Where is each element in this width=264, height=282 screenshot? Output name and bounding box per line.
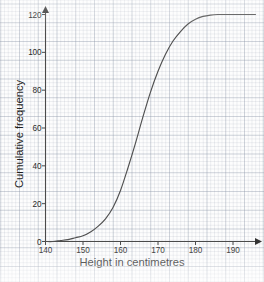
x-axis-title: Height in centimetres [0, 256, 264, 268]
x-tick-label: 170 [151, 246, 164, 255]
y-axis-title: Cumulative frequency [13, 59, 25, 209]
x-tick-label: 150 [76, 246, 89, 255]
x-axis-arrow-icon [255, 238, 262, 245]
y-tick-label: 0 [14, 237, 42, 246]
x-tick-label: 160 [114, 246, 127, 255]
cumulative-frequency-chart: 140150160170180190 020406080100120 Heigh… [0, 0, 264, 282]
y-tick-label: 120 [14, 10, 42, 19]
x-tick-label: 140 [39, 246, 52, 255]
y-tick-label: 100 [14, 48, 42, 57]
cumulative-frequency-curve [46, 14, 256, 241]
x-tick-label: 190 [226, 246, 239, 255]
x-tick-label: 180 [189, 246, 202, 255]
y-axis-arrow-icon [42, 6, 49, 13]
